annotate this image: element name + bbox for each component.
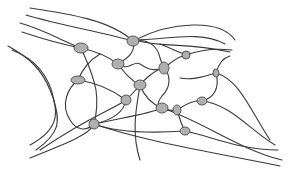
polymer-chain bbox=[135, 40, 230, 52]
polymer-chain bbox=[180, 73, 216, 79]
polymer-chain bbox=[81, 48, 97, 124]
polymer-chain bbox=[26, 15, 133, 41]
polymer-chain bbox=[78, 80, 126, 100]
crosslink-node bbox=[89, 119, 99, 129]
polymer-network-diagram bbox=[0, 0, 288, 171]
polymer-chain bbox=[118, 63, 164, 69]
crosslink-node bbox=[156, 103, 168, 113]
crosslink-node bbox=[213, 69, 219, 77]
crosslink-node bbox=[134, 80, 146, 90]
polymer-chain bbox=[162, 108, 282, 160]
polymer-chain bbox=[216, 73, 270, 140]
polymer-chain bbox=[30, 8, 133, 41]
polymer-chain bbox=[186, 49, 232, 55]
crosslink-node bbox=[197, 97, 207, 105]
crosslink-node bbox=[112, 59, 124, 69]
crosslink-node bbox=[173, 105, 181, 115]
crosslink-node bbox=[159, 62, 169, 74]
crosslink-node bbox=[180, 127, 190, 135]
crosslink-node bbox=[121, 95, 131, 105]
crosslink-node bbox=[74, 43, 88, 53]
polymer-chain bbox=[135, 85, 140, 160]
polymer-chain bbox=[94, 108, 162, 124]
crosslink-node bbox=[182, 51, 190, 59]
polymer-chain bbox=[135, 25, 235, 40]
crosslink-node bbox=[127, 36, 139, 46]
crosslink-node bbox=[71, 76, 85, 84]
